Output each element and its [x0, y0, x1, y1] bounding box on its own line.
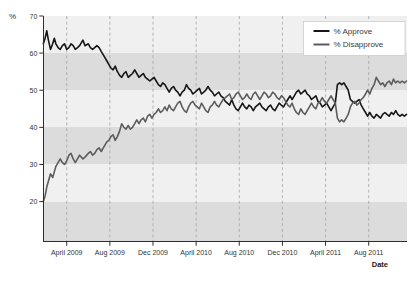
x-tick-label: Aug 2011: [354, 249, 384, 257]
x-tick-label: Aug 2010: [224, 249, 254, 257]
legend: % Approve % Disapprove: [304, 22, 406, 56]
x-tick-label: Aug 2009: [95, 249, 125, 257]
y-tick-label: 20: [30, 198, 38, 205]
x-tick-label: April 2010: [180, 249, 212, 257]
line-chart: 203040506070April 2009Aug 2009Dec 2009Ap…: [0, 0, 411, 284]
approval-chart-figure: 203040506070April 2009Aug 2009Dec 2009Ap…: [0, 0, 411, 284]
y-tick-label: 40: [30, 124, 38, 131]
y-tick-label: 70: [30, 13, 38, 20]
x-tick-label: Dec 2009: [138, 249, 168, 256]
y-tick-label: 60: [30, 50, 38, 57]
band-light: [43, 164, 407, 201]
band-light: [43, 90, 407, 127]
x-tick-label: April 2009: [51, 249, 83, 257]
legend-disapprove-label: % Disapprove: [334, 40, 384, 49]
legend-approve-label: % Approve: [334, 27, 373, 36]
y-tick-label: 30: [30, 161, 38, 168]
x-tick-label: Dec 2010: [267, 249, 297, 256]
y-tick-label: 50: [30, 87, 38, 94]
x-tick-label: April 2011: [310, 249, 341, 257]
y-axis-unit-label: %: [9, 12, 16, 21]
x-axis-title: Date: [372, 260, 388, 269]
